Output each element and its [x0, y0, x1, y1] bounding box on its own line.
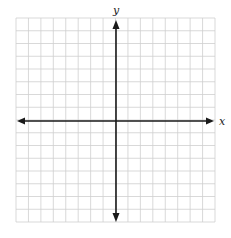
y-axis-bottom-arrow-icon [113, 213, 120, 222]
axes [17, 20, 214, 222]
y-axis-label: y [112, 4, 120, 17]
y-axis-top-arrow-icon [113, 20, 120, 29]
x-axis-left-arrow-icon [17, 118, 25, 125]
x-axis-label: x [219, 115, 226, 128]
coordinate-plane: x y [0, 0, 231, 238]
x-axis-right-arrow-icon [206, 118, 214, 125]
